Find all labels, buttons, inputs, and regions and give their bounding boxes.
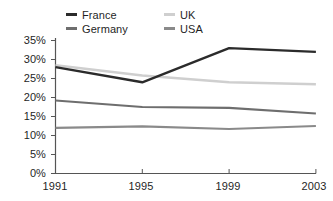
series-line-germany xyxy=(56,101,316,114)
x-axis-ticks xyxy=(56,169,316,174)
series-lines xyxy=(56,48,316,129)
line-chart: France Germany UK USA 35% 30% 25% 20% 15… xyxy=(0,0,333,201)
y-axis-ticks xyxy=(51,41,55,174)
axes xyxy=(55,38,316,174)
series-line-france xyxy=(56,48,316,82)
plot-area xyxy=(0,0,333,201)
series-line-usa xyxy=(56,126,316,129)
